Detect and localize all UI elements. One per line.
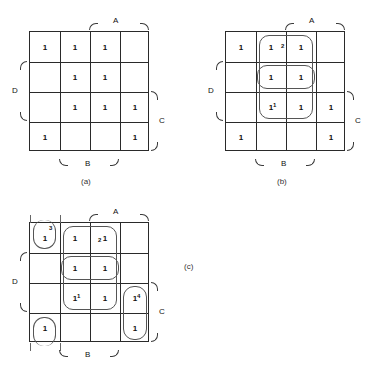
kmap-group-tag-2: 2 (281, 43, 284, 49)
caption-a: (a) (81, 177, 91, 186)
axis-label-a: A (113, 16, 118, 25)
axis-label-c: C (159, 116, 165, 125)
bracket-a-hook-left (285, 23, 294, 30)
bracket-b-hook-left (255, 159, 264, 166)
kmap-cell[interactable]: 1 (90, 223, 120, 253)
axis-label-b: B (281, 159, 286, 168)
axis-label-d: D (12, 277, 18, 286)
bracket-d-hook-bottom (20, 303, 27, 312)
kmap-cell[interactable]: 1 (120, 283, 150, 313)
kmap-cell[interactable]: 1 (316, 92, 346, 122)
kmap-b-grid: 1 1 1 1 1 1 1 1 1 1 2 1 (225, 31, 345, 151)
bracket-a-hook-right (336, 23, 345, 30)
kmap-group-tag-1: 1 (77, 293, 80, 299)
kmap-cell[interactable]: 1 (226, 122, 256, 152)
kmap-cell[interactable]: 1 (30, 122, 60, 152)
axis-label-b: B (85, 159, 90, 168)
bracket-c-hook-top (151, 282, 158, 291)
bracket-c-hook-top (347, 91, 354, 100)
bracket-d-hook-top (216, 61, 223, 70)
kmap-cell[interactable]: 1 (90, 92, 120, 122)
kmap-cell[interactable]: 1 (60, 62, 90, 92)
wrap-tick (30, 343, 31, 351)
axis-label-c: C (355, 116, 361, 125)
kmap-cell[interactable]: 1 (256, 92, 286, 122)
kmap-cell[interactable]: 1 (60, 32, 90, 62)
axis-label-a: A (309, 16, 314, 25)
kmap-cell[interactable]: 1 (90, 253, 120, 283)
bracket-a-hook-left (89, 214, 98, 221)
axis-label-a: A (113, 207, 118, 216)
axis-label-d: D (208, 86, 214, 95)
bracket-d-hook-bottom (20, 112, 27, 121)
wrap-tick (30, 215, 31, 223)
kmap-cell[interactable]: 1 (226, 32, 256, 62)
axis-label-c: C (159, 307, 165, 316)
kmap-group-tag-2: 2 (98, 237, 101, 243)
kmap-cell[interactable]: 1 (60, 283, 90, 313)
bracket-d-hook-top (20, 61, 27, 70)
kmap-cell[interactable]: 1 (90, 32, 120, 62)
bracket-c-hook-bottom (151, 142, 158, 151)
bracket-d-hook-top (20, 252, 27, 261)
bracket-c-hook-top (151, 91, 158, 100)
bracket-c-hook-bottom (151, 333, 158, 342)
bracket-b-hook-right (306, 159, 315, 166)
kmap-cell[interactable]: 1 (316, 122, 346, 152)
kmap-cell[interactable]: 1 (60, 92, 90, 122)
kmap-cell[interactable]: 1 (60, 223, 90, 253)
bracket-b-hook-right (110, 350, 119, 357)
kmap-cell[interactable]: 1 (120, 313, 150, 343)
caption-c: (c) (184, 262, 193, 271)
kmap-cell[interactable]: 1 (256, 62, 286, 92)
kmap-group-tag-4: 4 (137, 293, 140, 299)
kmap-cell[interactable]: 1 (286, 62, 316, 92)
bracket-a-hook-left (89, 23, 98, 30)
caption-b: (b) (277, 177, 287, 186)
axis-label-d: D (12, 86, 18, 95)
kmap-cell[interactable]: 1 (286, 32, 316, 62)
bracket-a-hook-right (140, 214, 149, 221)
kmap-group-tag-3: 3 (49, 225, 52, 231)
bracket-c-hook-bottom (347, 142, 354, 151)
kmap-cell[interactable]: 1 (60, 253, 90, 283)
kmap-group-tag-1: 1 (273, 102, 276, 108)
axis-label-b: B (85, 350, 90, 359)
bracket-b-hook-right (110, 159, 119, 166)
bracket-d-hook-bottom (216, 112, 223, 121)
wrap-tick (60, 215, 61, 223)
kmap-cell[interactable]: 1 (30, 313, 60, 343)
bracket-b-hook-left (59, 159, 68, 166)
bracket-a-hook-right (140, 23, 149, 30)
kmap-c-grid: 1 1 1 1 1 1 1 1 1 1 3 2 1 4 (29, 222, 149, 342)
kmap-cell[interactable]: 1 (90, 62, 120, 92)
kmap-cell[interactable]: 1 (90, 283, 120, 313)
kmap-cell[interactable]: 1 (286, 92, 316, 122)
kmap-cell[interactable]: 1 (120, 92, 150, 122)
kmap-cell[interactable]: 1 (30, 223, 60, 253)
kmap-a-grid: 1 1 1 1 1 1 1 1 1 1 (29, 31, 149, 151)
bracket-b-hook-left (59, 350, 68, 357)
kmap-cell[interactable]: 1 (30, 32, 60, 62)
kmap-cell[interactable]: 1 (120, 122, 150, 152)
